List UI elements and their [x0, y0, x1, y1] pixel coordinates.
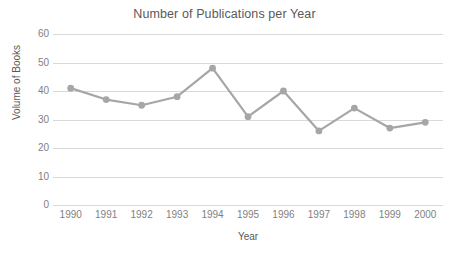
x-tick-label: 1993: [166, 209, 188, 220]
data-point-marker: [67, 85, 74, 92]
line-chart: Number of Publications per Year Volume o…: [0, 0, 449, 264]
data-point-marker: [103, 96, 110, 103]
y-axis-tick-labels: 0102030405060: [9, 34, 49, 205]
x-tick-label: 1994: [201, 209, 223, 220]
data-point-marker: [386, 125, 393, 132]
plot-area: [53, 34, 443, 205]
x-tick-label: 1998: [343, 209, 365, 220]
x-tick-label: 1992: [131, 209, 153, 220]
x-tick-label: 1996: [272, 209, 294, 220]
series-line: [71, 68, 426, 131]
x-tick-label: 2000: [414, 209, 436, 220]
y-tick-label: 20: [13, 143, 49, 153]
data-point-marker: [422, 119, 429, 126]
series-publications: [53, 34, 443, 205]
x-tick-label: 1997: [308, 209, 330, 220]
data-point-marker: [245, 113, 252, 120]
data-point-marker: [209, 65, 216, 72]
x-tick-label: 1991: [95, 209, 117, 220]
data-point-marker: [351, 105, 358, 112]
x-axis-tick-labels: 1990199119921993199419951996199719981999…: [53, 209, 443, 223]
gridline: [53, 205, 443, 206]
data-point-marker: [174, 93, 181, 100]
y-tick-label: 10: [13, 172, 49, 182]
x-axis-title: Year: [53, 231, 443, 242]
x-tick-label: 1999: [379, 209, 401, 220]
y-tick-label: 0: [13, 200, 49, 210]
data-point-marker: [138, 102, 145, 109]
y-tick-label: 30: [13, 115, 49, 125]
y-tick-label: 40: [13, 86, 49, 96]
x-tick-label: 1990: [60, 209, 82, 220]
y-tick-label: 60: [13, 29, 49, 39]
data-point-marker: [316, 128, 323, 135]
data-point-marker: [280, 88, 287, 95]
chart-title: Number of Publications per Year: [0, 7, 449, 21]
x-tick-label: 1995: [237, 209, 259, 220]
y-tick-label: 50: [13, 58, 49, 68]
